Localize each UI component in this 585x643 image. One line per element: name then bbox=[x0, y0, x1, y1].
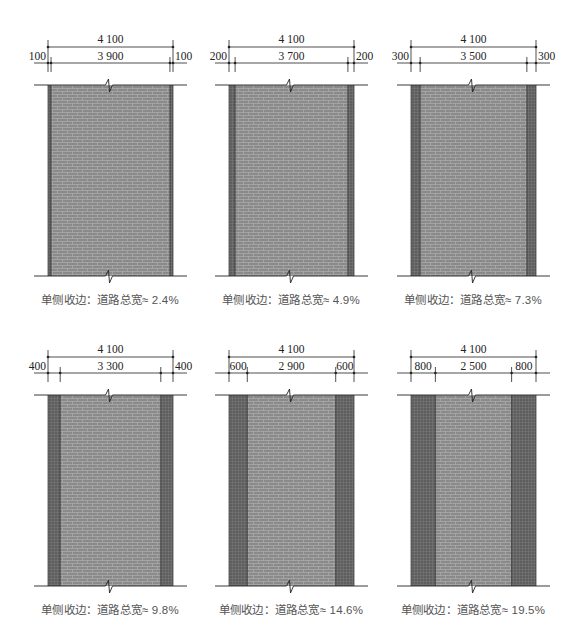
left-edge-label: 400 bbox=[29, 360, 47, 372]
left-edge-band bbox=[411, 85, 420, 276]
dimension-annotation: 4 1003 700200200 bbox=[210, 33, 374, 72]
total-width-label: 4 100 bbox=[461, 343, 487, 355]
total-width-label: 4 100 bbox=[279, 343, 305, 355]
total-width-label: 4 100 bbox=[98, 343, 124, 355]
ratio-caption-3: 单侧收边：道路总宽≈ 7.3% bbox=[383, 291, 563, 307]
left-edge-label: 200 bbox=[210, 50, 228, 62]
left-edge-band bbox=[48, 85, 51, 276]
left-edge-label: 100 bbox=[29, 50, 47, 62]
inner-width-label: 2 900 bbox=[279, 360, 305, 372]
right-edge-label: 200 bbox=[356, 50, 374, 62]
right-edge-band bbox=[336, 395, 354, 586]
paving-diagram-4: 4 1003 300400400 bbox=[20, 310, 200, 600]
dimension-annotation: 4 1003 500300300 bbox=[392, 33, 556, 72]
dimension-annotation: 4 1002 500800800 bbox=[397, 343, 550, 382]
inner-width-label: 3 700 bbox=[279, 50, 305, 62]
paving-panel-4: 4 1003 300400400 单侧收边：道路总宽≈ 9.8% bbox=[20, 310, 200, 620]
ratio-caption-6: 单侧收边：道路总宽≈ 19.5% bbox=[383, 601, 563, 617]
paving-panel-3: 4 1003 500300300 单侧收边：道路总宽≈ 7.3% bbox=[383, 0, 563, 310]
paving-panel-1: 4 1003 900100100 单侧收边：道路总宽≈ 2.4% bbox=[20, 0, 200, 310]
right-edge-band bbox=[161, 395, 173, 586]
right-edge-label: 800 bbox=[515, 360, 533, 372]
left-edge-band bbox=[48, 395, 60, 586]
left-edge-label: 300 bbox=[392, 50, 410, 62]
paving-panel-6: 4 1002 500800800 单侧收边：道路总宽≈ 19.5% bbox=[383, 310, 563, 620]
left-edge-band bbox=[229, 395, 247, 586]
total-width-label: 4 100 bbox=[461, 33, 487, 45]
dimension-annotation: 4 1003 900100100 bbox=[29, 33, 193, 72]
ratio-caption-4: 单侧收边：道路总宽≈ 9.8% bbox=[20, 601, 200, 617]
paving-diagram-1: 4 1003 900100100 bbox=[20, 0, 200, 290]
paving-field bbox=[411, 85, 536, 276]
inner-width-label: 3 500 bbox=[461, 50, 487, 62]
total-width-label: 4 100 bbox=[98, 33, 124, 45]
inner-width-label: 3 300 bbox=[98, 360, 124, 372]
paving-diagram-3: 4 1003 500300300 bbox=[383, 0, 563, 290]
right-edge-label: 400 bbox=[175, 360, 193, 372]
paving-panel-2: 4 1003 700200200 单侧收边：道路总宽≈ 4.9% bbox=[201, 0, 381, 310]
paving-panel-5: 4 1002 900600600 单侧收边：道路总宽≈ 14.6% bbox=[201, 310, 381, 620]
right-edge-label: 300 bbox=[538, 50, 556, 62]
left-edge-band bbox=[229, 85, 235, 276]
total-width-label: 4 100 bbox=[279, 33, 305, 45]
right-edge-label: 600 bbox=[336, 360, 354, 372]
paving-diagram-5: 4 1002 900600600 bbox=[201, 310, 381, 600]
right-edge-band bbox=[512, 395, 536, 586]
left-edge-label: 800 bbox=[415, 360, 433, 372]
paving-field bbox=[48, 395, 173, 586]
paving-field bbox=[411, 395, 536, 586]
paving-field bbox=[229, 395, 354, 586]
paving-diagram-6: 4 1002 500800800 bbox=[383, 310, 563, 600]
ratio-caption-2: 单侧收边：道路总宽≈ 4.9% bbox=[201, 291, 381, 307]
inner-width-label: 3 900 bbox=[98, 50, 124, 62]
dimension-annotation: 4 1002 900600600 bbox=[215, 343, 368, 382]
right-edge-label: 100 bbox=[175, 50, 193, 62]
right-edge-band bbox=[170, 85, 173, 276]
inner-width-label: 2 500 bbox=[461, 360, 487, 372]
ratio-caption-5: 单侧收边：道路总宽≈ 14.6% bbox=[201, 601, 381, 617]
left-edge-band bbox=[411, 395, 435, 586]
ratio-caption-1: 单侧收边：道路总宽≈ 2.4% bbox=[20, 291, 200, 307]
paving-field bbox=[229, 85, 354, 276]
left-edge-label: 600 bbox=[230, 360, 248, 372]
right-edge-band bbox=[527, 85, 536, 276]
paving-field bbox=[48, 85, 173, 276]
dimension-annotation: 4 1003 300400400 bbox=[29, 343, 193, 382]
paving-diagram-2: 4 1003 700200200 bbox=[201, 0, 381, 290]
right-edge-band bbox=[348, 85, 354, 276]
